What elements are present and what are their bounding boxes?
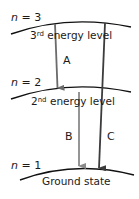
ordinal-number: 3 xyxy=(30,29,37,41)
equals-sign: = xyxy=(21,159,30,172)
ordinal-suffix: rd xyxy=(37,30,44,38)
level-2-n-label: n = 2 xyxy=(11,77,41,88)
n-value: 1 xyxy=(34,159,41,172)
n-value: 2 xyxy=(34,76,41,89)
level-3-name-label: 3rd energy level xyxy=(30,30,112,41)
level-name: energy level xyxy=(50,95,115,107)
level-name: energy level xyxy=(47,29,112,41)
ordinal-suffix: nd xyxy=(38,96,47,104)
transition-a-label: A xyxy=(63,55,71,66)
level-1-n-label: n = 1 xyxy=(11,160,41,171)
n-symbol: n xyxy=(11,159,18,172)
n-symbol: n xyxy=(11,76,18,89)
transition-c-label: C xyxy=(107,131,115,142)
equals-sign: = xyxy=(21,76,30,89)
n-value: 3 xyxy=(34,11,41,24)
level-3-n-label: n = 3 xyxy=(11,12,41,23)
ordinal-number: 2 xyxy=(31,95,38,107)
equals-sign: = xyxy=(21,11,30,24)
n-symbol: n xyxy=(11,11,18,24)
transition-b-label: B xyxy=(65,131,73,142)
ground-state-label: Ground state xyxy=(42,176,111,187)
level-2-name-label: 2nd energy level xyxy=(31,96,115,107)
